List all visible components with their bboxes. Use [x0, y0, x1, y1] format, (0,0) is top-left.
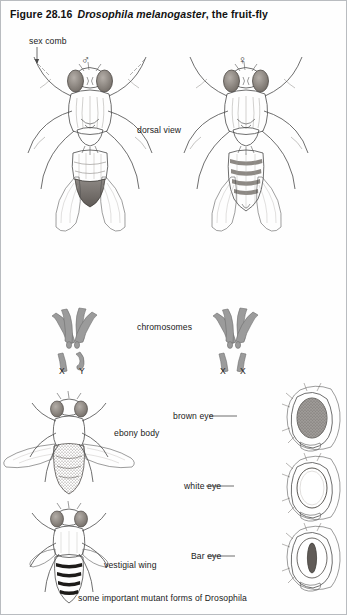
brown-eye-label: brown eye: [173, 411, 214, 421]
white-eye-label: white eye: [184, 481, 221, 491]
ebony-body-label: ebony body: [114, 428, 159, 438]
figure-title: Figure 28.16Drosophila melanogaster, the…: [10, 8, 268, 20]
figure-panel: Figure 28.16Drosophila melanogaster, the…: [0, 0, 347, 615]
female-fly-dorsal: [184, 57, 308, 231]
vestigial-wing-label: vestigial wing: [104, 560, 157, 570]
male-karyotype: [52, 308, 97, 372]
male-foreleg-right: [109, 57, 146, 96]
male-foreleg-left: [34, 57, 71, 96]
vestigial-wing-left: [30, 549, 55, 567]
brown-eye-head: [282, 383, 340, 451]
figure-number: Figure 28.16: [10, 8, 72, 20]
female-x1-label: X: [220, 366, 226, 376]
male-symbol: ♂: [81, 53, 90, 67]
bar-eye-label: Bar eye: [191, 551, 221, 561]
male-abdomen-tip: [75, 179, 105, 207]
figure-artwork: [1, 1, 347, 615]
dorsal-view-label: dorsal view: [137, 125, 181, 135]
brown-eye-shape: [297, 398, 327, 438]
caption-species: Drosophila: [205, 593, 247, 603]
bar-eye-head: [282, 523, 340, 591]
caption-text: some important mutant forms of: [78, 593, 205, 603]
figure-caption: some important mutant forms of Drosophil…: [78, 593, 247, 603]
ebony-abdomen: [54, 444, 85, 495]
sex-comb-label: sex comb: [29, 36, 67, 46]
vestigial-wing-fly: [30, 501, 108, 603]
white-eye-head: [282, 453, 340, 521]
title-tail: , the fruit-fly: [206, 8, 268, 20]
white-eye-shape: [297, 468, 327, 508]
ebony-body-fly: [4, 391, 135, 494]
species-name: Drosophila melanogaster: [77, 8, 205, 20]
female-abdomen: [228, 150, 264, 211]
female-x2-label: X: [240, 366, 246, 376]
chromosomes-label: chromosomes: [137, 322, 192, 332]
female-karyotype: [213, 308, 258, 372]
male-fly-dorsal: [28, 57, 152, 231]
male-y-label: Y: [79, 366, 85, 376]
female-symbol: ♀: [238, 53, 247, 67]
bar-eye-shape: [307, 543, 316, 573]
male-x-label: X: [59, 366, 65, 376]
sex-comb-arrowhead: [35, 59, 39, 64]
